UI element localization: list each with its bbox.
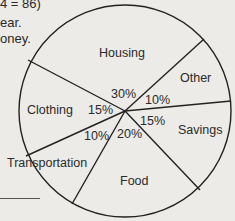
divider-other-savings: [125, 101, 231, 111]
pct-other: 10%: [145, 93, 170, 107]
pct-savings: 15%: [140, 114, 165, 128]
pct-clothing: 15%: [88, 103, 113, 117]
pct-transportation: 10%: [84, 129, 109, 143]
pct-housing: 30%: [111, 87, 136, 101]
slice-label-savings: Savings: [178, 123, 222, 137]
slice-label-clothing: Clothing: [27, 103, 73, 117]
slice-label-housing: Housing: [99, 46, 145, 60]
answer-rule-line: [0, 198, 40, 199]
divider-transportation-clothing: [26, 111, 125, 156]
slice-label-other: Other: [180, 71, 211, 85]
slice-label-transportation: Transportation: [7, 156, 87, 170]
slice-label-food: Food: [120, 174, 149, 188]
pie-chart: Housing Other Savings Food Transportatio…: [0, 0, 235, 221]
pct-food: 20%: [117, 127, 142, 141]
